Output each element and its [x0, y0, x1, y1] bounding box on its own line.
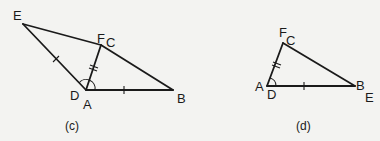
label-B: B	[356, 78, 365, 93]
caption-c: (c)	[65, 119, 79, 133]
label-E: E	[365, 90, 374, 105]
congruence-diagram: E F C D A B (c) F C A D B E (d)	[0, 0, 380, 141]
angle-arc-A	[270, 78, 276, 86]
edge-CB	[101, 45, 173, 90]
label-F: F	[97, 31, 105, 46]
label-B: B	[177, 91, 186, 106]
label-D: D	[267, 87, 276, 102]
label-E: E	[13, 8, 22, 23]
figure-d: F C A D B E (d)	[255, 25, 374, 133]
edge-CB	[283, 43, 355, 86]
figure-c: E F C D A B (c)	[13, 8, 186, 133]
label-C: C	[106, 35, 115, 50]
caption-d: (d)	[296, 119, 311, 133]
label-C: C	[286, 33, 295, 48]
label-A: A	[255, 79, 264, 94]
label-D: D	[70, 88, 79, 103]
edge-ED	[23, 24, 86, 90]
edge-EF	[23, 24, 101, 45]
label-A: A	[83, 97, 92, 112]
